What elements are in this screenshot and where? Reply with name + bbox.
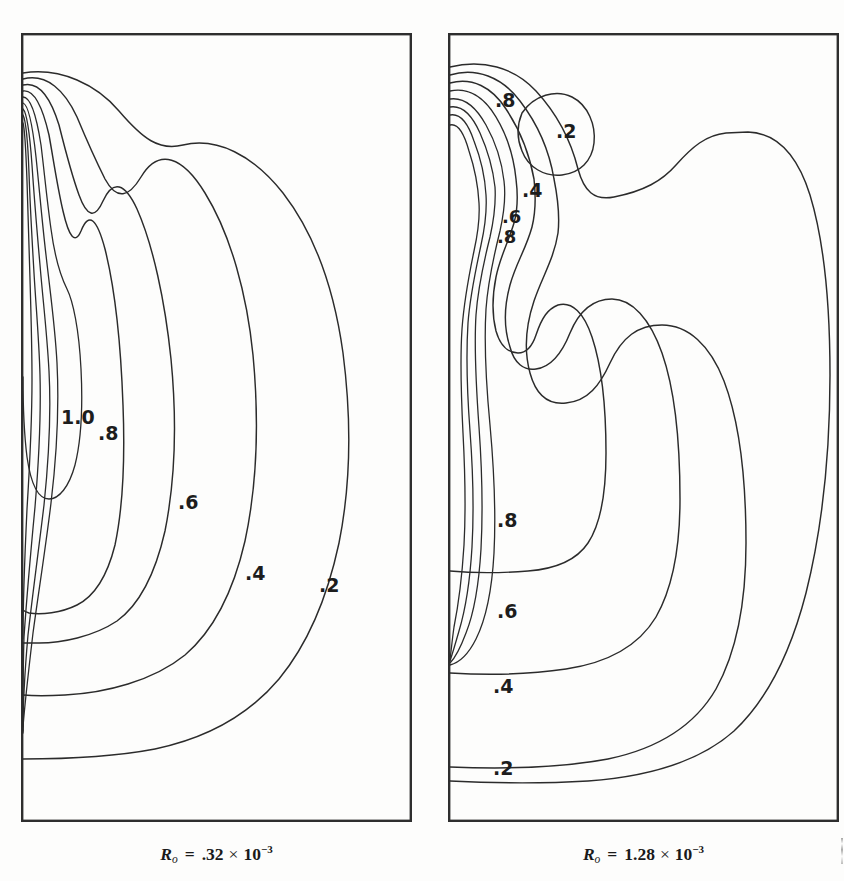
contour-label-0.8-lower-right: .8 — [497, 509, 517, 531]
contour-panel-right: .8 .2 .4 .6 .8 .8 .6 .4 .2 — [448, 33, 839, 822]
contour-label-0.8-top-right: .8 — [495, 89, 515, 111]
contour-svg-left: 1.0 .8 .6 .4 .2 — [21, 33, 412, 822]
caption-value-left: .32 — [202, 844, 224, 864]
caption-subscript-right: o — [595, 853, 601, 865]
contour-label-0.2-left: .2 — [319, 574, 339, 596]
contour-label-0.4-lower-right: .4 — [493, 675, 513, 697]
contour-label-0.6-lower-right: .6 — [497, 600, 517, 622]
caption-equals-right: = — [607, 844, 617, 864]
contour-wall-bunch-3-right — [450, 115, 486, 661]
caption-symbol-right: R — [583, 844, 595, 864]
caption-symbol-left: R — [160, 844, 172, 864]
contour-level-0.4-right — [450, 72, 746, 768]
contour-label-0.6-left: .6 — [178, 491, 198, 513]
caption-times-right: × — [660, 844, 670, 864]
contour-label-0.6-upper-right: .6 — [502, 206, 521, 227]
caption-base-right: 10 — [675, 844, 693, 864]
contour-label-0.4-upper-right: .4 — [522, 179, 542, 201]
caption-value-right: 1.28 — [624, 844, 655, 864]
contour-labels-left: 1.0 .8 .6 .4 .2 — [61, 406, 339, 596]
contour-panel-left: 1.0 .8 .6 .4 .2 — [21, 33, 412, 822]
contour-label-0.8-upper-right: .8 — [497, 226, 516, 247]
contour-label-0.8-left: .8 — [98, 422, 118, 444]
page-edge-artifact — [841, 838, 843, 864]
caption-exponent-left: −3 — [261, 843, 273, 855]
contour-labels-right: .8 .2 .4 .6 .8 .8 .6 .4 .2 — [493, 89, 576, 779]
contour-wall-bunch-2-right — [450, 107, 495, 663]
contour-level-0.6-left — [23, 84, 174, 643]
caption-left: Ro=.32×10−3 — [21, 843, 412, 865]
caption-subscript-left: o — [172, 853, 178, 865]
caption-times-left: × — [229, 844, 239, 864]
contour-label-0.4-left: .4 — [245, 562, 265, 584]
contour-label-1.0-left: 1.0 — [61, 406, 95, 428]
caption-right: Ro=1.28×10−3 — [448, 843, 839, 865]
caption-equals-left: = — [185, 844, 195, 864]
contour-level-0.6-right — [450, 81, 680, 674]
contour-label-0.2-lower-right: .2 — [493, 757, 513, 779]
contour-label-0.2-top-right: .2 — [556, 120, 576, 142]
figure-container: 1.0 .8 .6 .4 .2 — [0, 0, 844, 881]
caption-base-left: 10 — [243, 844, 261, 864]
contour-wall-bunch-4-right — [450, 125, 479, 659]
contour-svg-right: .8 .2 .4 .6 .8 .8 .6 .4 .2 — [448, 33, 839, 822]
contour-level-0.8-left — [23, 91, 124, 614]
caption-exponent-right: −3 — [692, 843, 704, 855]
panel-frame-right — [449, 34, 838, 821]
